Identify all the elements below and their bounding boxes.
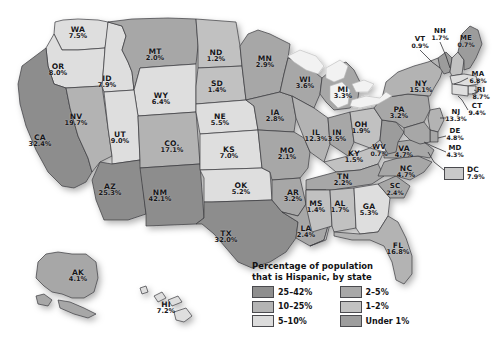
- legend-swatch: [340, 301, 362, 313]
- map-legend: Percentage of population that is Hispani…: [252, 261, 418, 327]
- legend-title-line1: Percentage of population: [252, 261, 373, 271]
- legend-swatch: [340, 286, 362, 298]
- state-ND: [196, 19, 242, 68]
- state-NM: [140, 164, 204, 226]
- legend-item: Under 1%: [340, 315, 419, 327]
- legend-swatch: [252, 315, 274, 327]
- legend-label: 1–2%: [366, 302, 389, 311]
- state-AL: [330, 188, 356, 232]
- dc-swatch: [444, 167, 464, 180]
- state-CO: [138, 112, 200, 168]
- state-HI: [140, 286, 192, 322]
- state-SD: [196, 66, 246, 104]
- legend-title-line2: that is Hispanic, by state: [252, 272, 372, 282]
- state-WA: [54, 19, 108, 50]
- dc-label: DC 7.9%: [467, 166, 485, 180]
- state-AZ: [92, 160, 146, 220]
- state-OH: [350, 108, 382, 148]
- state-IN: [328, 112, 354, 156]
- legend-swatch: [340, 315, 362, 327]
- legend-label: 10–25%: [278, 302, 312, 311]
- legend-item: 1–2%: [340, 301, 419, 313]
- legend-label: 25–42%: [278, 288, 312, 297]
- legend-item: 25–42%: [252, 286, 331, 298]
- state-OK: [200, 168, 272, 202]
- state-NE: [196, 100, 258, 134]
- dc-callout: DC 7.9%: [444, 166, 485, 180]
- state-NC: [378, 156, 432, 180]
- state-AK: [36, 252, 98, 318]
- state-CT: [452, 84, 468, 96]
- legend-item: 10–25%: [252, 301, 331, 313]
- state-NJ: [428, 108, 444, 132]
- legend-label: 2–5%: [366, 288, 389, 297]
- state-DE: [430, 130, 438, 142]
- hispanic-population-map: WA7.5%OR8.0%CA32.4%NV19.7%ID7.9%MT2.0%WY…: [0, 0, 498, 338]
- legend-label: 5–10%: [278, 317, 307, 326]
- legend-item: 2–5%: [340, 286, 419, 298]
- legend-swatch: [252, 286, 274, 298]
- dc-pct: 7.9%: [467, 174, 485, 181]
- legend-label: Under 1%: [366, 317, 410, 326]
- legend-item: 5–10%: [252, 315, 331, 327]
- legend-title: Percentage of population that is Hispani…: [252, 261, 418, 282]
- legend-swatch: [252, 301, 274, 313]
- state-WY: [134, 64, 196, 116]
- us-choropleth-map: [0, 0, 498, 338]
- state-KS: [200, 130, 262, 170]
- legend-items: 25–42%2–5%10–25%1–2%5–10%Under 1%: [252, 286, 418, 327]
